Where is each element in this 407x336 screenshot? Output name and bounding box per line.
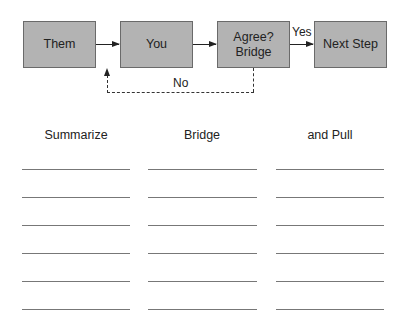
node-agree-label: Agree? Bridge — [233, 30, 273, 60]
node-them: Them — [23, 21, 96, 68]
writing-line — [276, 225, 384, 226]
writing-line — [148, 309, 257, 310]
node-you-label: You — [146, 37, 167, 52]
writing-line — [148, 169, 257, 170]
loop-down-segment — [253, 68, 254, 92]
node-agree-line1: Agree? — [233, 30, 273, 44]
writing-line — [22, 169, 130, 170]
column-header-bridge: Bridge — [148, 128, 256, 142]
no-label: No — [173, 76, 188, 90]
arrow-agree-to-next — [290, 44, 313, 45]
writing-line — [276, 309, 384, 310]
node-agree-line2: Bridge — [235, 45, 271, 59]
writing-line — [276, 169, 384, 170]
arrowhead-up-icon — [104, 68, 110, 76]
writing-line — [148, 197, 257, 198]
writing-line — [148, 253, 257, 254]
writing-line — [22, 225, 130, 226]
writing-line — [148, 225, 257, 226]
writing-line — [148, 281, 257, 282]
column-header-and-pull: and Pull — [276, 128, 384, 142]
writing-line — [22, 253, 130, 254]
node-you: You — [120, 21, 193, 68]
writing-line — [276, 197, 384, 198]
yes-label: Yes — [292, 25, 312, 39]
writing-line — [276, 281, 384, 282]
column-header-summarize: Summarize — [22, 128, 130, 142]
arrow-them-to-you — [96, 44, 119, 45]
writing-line — [22, 309, 130, 310]
writing-line — [276, 253, 384, 254]
writing-line — [22, 281, 130, 282]
node-them-label: Them — [44, 37, 76, 52]
arrow-you-to-agree — [193, 44, 216, 45]
loop-horizontal-segment — [107, 92, 254, 93]
writing-line — [22, 197, 130, 198]
node-next-label: Next Step — [323, 37, 378, 52]
loop-up-segment — [107, 75, 108, 93]
node-agree-bridge: Agree? Bridge — [217, 21, 290, 68]
node-next-step: Next Step — [314, 21, 387, 68]
